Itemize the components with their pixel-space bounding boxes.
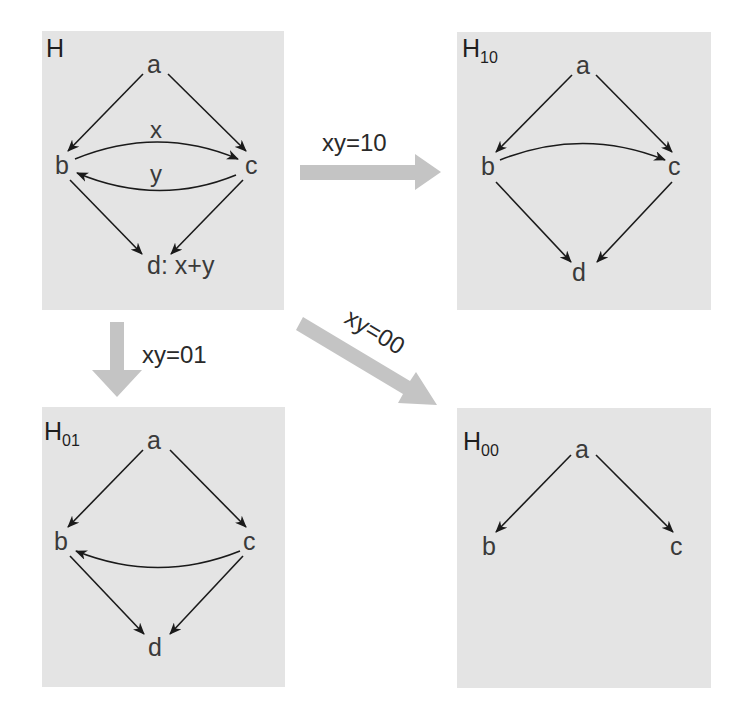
right-arrow-icon — [300, 154, 441, 190]
node-c: c — [243, 527, 256, 555]
down-arrow-icon — [92, 322, 142, 397]
node-b: b — [54, 527, 68, 555]
node-a: a — [147, 426, 161, 454]
edge-label-y: y — [150, 160, 162, 187]
transition-label-xy10: xy=10 — [322, 129, 387, 156]
panel-h: H a b c d: x+y x y — [42, 31, 284, 310]
node-c: c — [245, 151, 258, 179]
transition-to-h01: xy=01 — [92, 322, 207, 397]
node-d: d — [572, 258, 586, 286]
panel-h-title: H — [46, 34, 64, 62]
node-b: b — [482, 532, 496, 560]
node-a: a — [575, 435, 589, 463]
node-d: d — [148, 633, 162, 661]
node-b: b — [481, 152, 495, 180]
node-d: d: x+y — [147, 251, 215, 279]
diagram-canvas: H a b c d: x+y x y H10 a b c d H01 — [0, 0, 745, 721]
node-c: c — [670, 532, 683, 560]
transition-label-xy01: xy=01 — [142, 341, 207, 368]
node-a: a — [576, 51, 590, 79]
node-c: c — [668, 152, 681, 180]
transition-to-h00: xy=00 — [296, 303, 437, 405]
node-a: a — [147, 50, 161, 78]
panel-h10: H10 a b c d — [457, 32, 711, 310]
edge-label-x: x — [150, 116, 162, 143]
panel-h00: H00 a b c — [457, 408, 711, 688]
transition-to-h10: xy=10 — [300, 129, 441, 190]
panel-h01: H01 a b c d — [42, 407, 285, 687]
node-b: b — [55, 151, 69, 179]
